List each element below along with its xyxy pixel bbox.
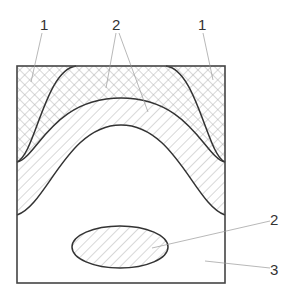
label-3: 3 [270, 261, 278, 278]
label-2-ellipse: 2 [270, 211, 278, 228]
elliptical-inclusion [72, 226, 168, 268]
layered-cross-section-diagram: 1 2 1 2 3 [0, 0, 290, 300]
leader-line-2-ellipse [152, 221, 270, 248]
label-1-right: 1 [198, 16, 206, 33]
label-2-top: 2 [112, 16, 120, 33]
label-1-left: 1 [40, 16, 48, 33]
leader-line-3 [205, 261, 270, 268]
